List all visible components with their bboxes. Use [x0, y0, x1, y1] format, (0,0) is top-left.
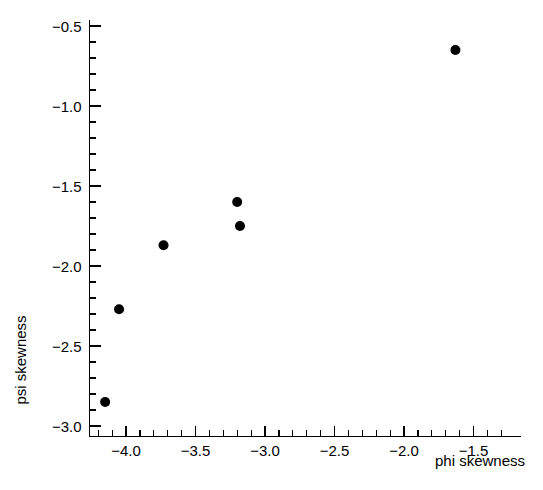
- data-point: [450, 45, 460, 55]
- data-point: [232, 197, 242, 207]
- plot-canvas: −0.5−1.0−1.5−2.0−2.5−3.0 −4.0−3.5−3.0−2.…: [0, 0, 543, 490]
- y-tick-label: −1.0: [52, 98, 82, 115]
- x-tick-label: −4.0: [111, 442, 141, 459]
- y-tick-label: −2.0: [52, 258, 82, 275]
- x-axis-major-ticks: [126, 426, 474, 437]
- data-point: [100, 397, 110, 407]
- data-point: [235, 221, 245, 231]
- y-axis-title: psi skewness: [12, 315, 29, 404]
- x-axis-minor-ticks: [98, 430, 501, 437]
- scatter-plot-figure: −0.5−1.0−1.5−2.0−2.5−3.0 −4.0−3.5−3.0−2.…: [0, 0, 543, 490]
- x-axis-tick-labels: −4.0−3.5−3.0−2.5−2.0−1.5: [111, 442, 488, 459]
- y-tick-label: −1.5: [52, 178, 82, 195]
- y-tick-label: −0.5: [52, 18, 82, 35]
- y-axis-minor-ticks: [90, 42, 97, 410]
- y-axis-major-ticks: [90, 26, 101, 426]
- x-axis-title: phi skewness: [435, 452, 525, 469]
- y-tick-label: −3.0: [52, 418, 82, 435]
- x-tick-label: −3.0: [250, 442, 280, 459]
- y-tick-label: −2.5: [52, 338, 82, 355]
- x-tick-label: −2.5: [320, 442, 350, 459]
- x-tick-label: −2.0: [389, 442, 419, 459]
- data-point: [159, 240, 169, 250]
- data-point: [114, 304, 124, 314]
- x-tick-label: −3.5: [181, 442, 211, 459]
- data-point-series: [100, 45, 460, 407]
- y-axis-tick-labels: −0.5−1.0−1.5−2.0−2.5−3.0: [52, 18, 82, 435]
